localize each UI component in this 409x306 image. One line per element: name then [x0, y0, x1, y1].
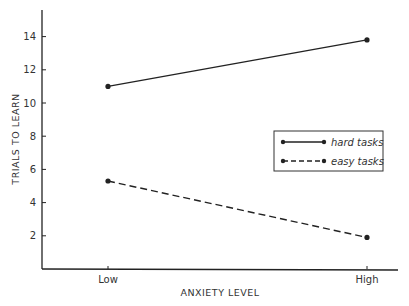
legend-marker [322, 140, 326, 144]
legend-marker [281, 159, 285, 163]
legend-label: easy tasks [331, 156, 384, 167]
legend-label: hard tasks [331, 137, 383, 148]
y-tick-label: 12 [23, 64, 36, 75]
x-axis-title: ANXIETY LEVEL [180, 287, 259, 298]
y-tick-label: 14 [23, 31, 36, 42]
series-line [108, 181, 367, 237]
y-tick-label: 8 [30, 131, 36, 142]
data-point [364, 37, 369, 42]
x-tick-label: High [356, 274, 379, 285]
data-point [105, 178, 110, 183]
data-point [105, 84, 110, 89]
legend: hard taskseasy tasks [274, 131, 384, 171]
y-axis-title: TRIALS TO LEARN [10, 93, 21, 185]
y-tick-label: 4 [30, 197, 36, 208]
legend-marker [322, 159, 326, 163]
legend-marker [281, 140, 285, 144]
y-tick-label: 10 [23, 98, 36, 109]
series-hard-tasks [105, 37, 369, 89]
line-chart: 2468101214 LowHigh TRIALS TO LEARN ANXIE… [0, 0, 409, 306]
y-tick-label: 2 [30, 230, 36, 241]
x-tick-label: Low [98, 274, 118, 285]
series-easy-tasks [105, 178, 369, 240]
x-axis-line [42, 269, 398, 270]
y-tick-label: 6 [30, 164, 36, 175]
series-line [108, 40, 367, 86]
data-point [364, 235, 369, 240]
